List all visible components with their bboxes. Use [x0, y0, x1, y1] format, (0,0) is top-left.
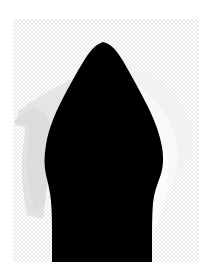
image-canvas-view[interactable] [0, 0, 213, 279]
black-arrow-shape [13, 19, 199, 262]
transparency-canvas[interactable] [13, 19, 199, 262]
